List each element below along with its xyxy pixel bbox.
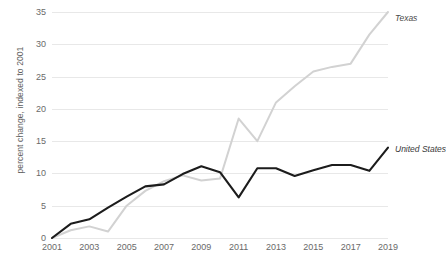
y-tick-label: 10 xyxy=(36,168,46,178)
x-tick-label: 2017 xyxy=(341,242,361,252)
y-tick-label: 20 xyxy=(36,104,46,114)
x-tick-label: 2015 xyxy=(303,242,323,252)
x-tick-label: 2001 xyxy=(42,242,62,252)
x-tick-label: 2005 xyxy=(117,242,137,252)
x-tick-label: 2013 xyxy=(266,242,286,252)
series-line-texas xyxy=(52,12,388,238)
x-tick-label: 2009 xyxy=(191,242,211,252)
gridline xyxy=(52,238,388,239)
series-label-texas: Texas xyxy=(395,13,417,23)
series-line-united-states xyxy=(52,148,388,238)
y-tick-label: 5 xyxy=(41,201,46,211)
y-tick-label: 25 xyxy=(36,72,46,82)
x-tick-label: 2007 xyxy=(154,242,174,252)
x-tick-label: 2019 xyxy=(378,242,398,252)
y-tick-label: 35 xyxy=(36,7,46,17)
x-tick-label: 2003 xyxy=(79,242,99,252)
y-axis-title: percent change, indexed to 2001 xyxy=(15,20,25,200)
y-tick-label: 30 xyxy=(36,39,46,49)
y-tick-label: 15 xyxy=(36,136,46,146)
x-tick-label: 2011 xyxy=(229,242,248,252)
plot-area: 05101520253035 2001200320052007200920112… xyxy=(52,12,388,238)
series-label-united-states: United States xyxy=(395,144,446,154)
series-lines xyxy=(52,12,388,238)
